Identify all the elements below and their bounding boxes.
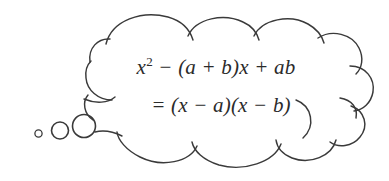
trail-bubbles (35, 115, 96, 140)
large-trail-bubble (73, 115, 96, 138)
medium-trail-bubble (52, 122, 69, 139)
formula-line-factored: = (x − a)(x − b) (108, 86, 324, 124)
thought-bubble-figure: x2 − (a + b)x + ab = (x − a)(x − b) (0, 0, 389, 181)
small-trail-bubble (35, 130, 42, 137)
formula-block: x2 − (a + b)x + ab = (x − a)(x − b) (108, 48, 324, 124)
formula-line-expanded: x2 − (a + b)x + ab (108, 48, 324, 86)
